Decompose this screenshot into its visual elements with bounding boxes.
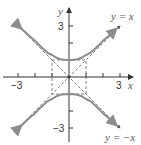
x-tick-label-3: 3 bbox=[116, 80, 122, 91]
y-axis-label: y bbox=[57, 5, 63, 17]
x-axis-label: x bbox=[127, 79, 133, 91]
origin-point bbox=[68, 76, 71, 79]
hyperbola-diagram: y 3 −3 −3 3 x y = x y = −x bbox=[0, 0, 141, 145]
y-tick-label-neg3: −3 bbox=[53, 123, 65, 134]
asymptote-label-y-equals-neg-x: y = −x bbox=[104, 131, 135, 143]
y-tick-label-3: 3 bbox=[58, 21, 64, 32]
x-tick-label-neg3: −3 bbox=[11, 80, 23, 91]
asymptote-label-y-equals-x: y = x bbox=[110, 10, 134, 22]
